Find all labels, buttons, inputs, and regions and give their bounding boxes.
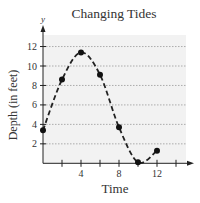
- x-tick-label: 12: [152, 168, 162, 179]
- data-point: [154, 148, 160, 154]
- y-tick-label: 4: [32, 119, 37, 130]
- y-tick-label: 12: [27, 41, 37, 52]
- y-axis-letter: y: [40, 14, 45, 24]
- data-point: [78, 49, 84, 55]
- tide-chart: Changing Tides 24681012 4812 y Time Dept…: [0, 0, 200, 203]
- x-axis-arrow-icon: [187, 161, 194, 166]
- data-point: [116, 124, 122, 130]
- chart-title: Changing Tides: [71, 6, 156, 21]
- data-point: [135, 159, 141, 165]
- data-point: [59, 77, 65, 83]
- y-axis-label: Depth (in feet): [6, 70, 20, 141]
- data-point: [97, 72, 103, 78]
- y-tick-label: 6: [32, 99, 37, 110]
- data-point: [40, 127, 46, 133]
- y-axis-arrow-icon: [41, 25, 46, 32]
- y-tick-label: 2: [32, 138, 37, 149]
- x-tick-label: 8: [117, 168, 122, 179]
- x-tick-label: 4: [79, 168, 84, 179]
- y-tick-label: 10: [27, 61, 37, 72]
- y-tick-label: 8: [32, 80, 37, 91]
- x-axis-label: Time: [102, 181, 129, 196]
